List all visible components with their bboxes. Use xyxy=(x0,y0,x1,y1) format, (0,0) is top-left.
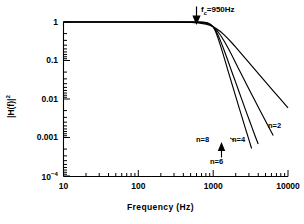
x-tick-label-1000: 1000 xyxy=(194,182,232,191)
y-axis-label: |H(f)|2 xyxy=(5,95,15,118)
curve-label-n4: n=4 xyxy=(232,136,245,144)
curve-label-n8: n=8 xyxy=(196,136,209,144)
x-tick-label-10000: 10000 xyxy=(267,182,304,191)
y-tick-label-0p01: 0.01 xyxy=(14,95,58,104)
y-axis-ticks xyxy=(64,22,71,176)
curve-n8 xyxy=(64,22,252,149)
curve-label-n2: n=2 xyxy=(268,122,281,130)
curve-n4 xyxy=(64,22,274,136)
x-axis-ticks xyxy=(64,170,289,177)
x-tick-label-100: 100 xyxy=(121,182,155,191)
y-tick-label-0p1: 0.1 xyxy=(20,56,58,65)
y-tick-label-1: 1 xyxy=(26,18,58,27)
y-tick-label-0p001: 0.001 xyxy=(8,133,58,142)
cutoff-arrow-icon xyxy=(193,7,199,24)
x-axis-label: Frequency (Hz) xyxy=(127,203,194,212)
x-tick-label-10: 10 xyxy=(49,182,79,191)
cutoff-frequency-annotation: fc=950Hz xyxy=(201,6,235,16)
y-tick-label-1e-4: 10−4 xyxy=(14,171,58,181)
n6-pointer-arrow-icon xyxy=(219,144,225,158)
curve-label-n6: n=6 xyxy=(210,158,223,166)
curve-n2 xyxy=(64,22,289,108)
data-curves xyxy=(64,22,289,149)
figure: 1 0.1 0.01 0.001 10−4 10 100 1000 10000 … xyxy=(0,0,304,224)
